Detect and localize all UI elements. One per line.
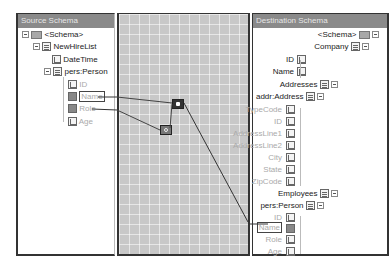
logical-functoid-icon[interactable]: [160, 125, 172, 135]
field-icon: [286, 117, 295, 126]
field-icon: [286, 177, 295, 186]
tree-connector: [300, 108, 301, 186]
record-icon: [320, 189, 329, 198]
collapse-icon[interactable]: [362, 43, 369, 50]
dest-node-address[interactable]: addr:Address: [256, 92, 324, 102]
linked-field-icon: [68, 92, 77, 101]
dest-node-employees[interactable]: Employees: [278, 189, 338, 199]
tree-connector: [300, 216, 301, 254]
record-icon: [53, 67, 62, 76]
dest-node-company-id[interactable]: ID: [286, 55, 294, 65]
dest-node-age[interactable]: Age: [268, 247, 282, 257]
collapse-icon[interactable]: [331, 81, 338, 88]
field-icon: [286, 213, 295, 222]
field-icon: [286, 153, 295, 162]
dest-node-schema[interactable]: <Schema>: [318, 30, 379, 40]
field-icon: [286, 129, 295, 138]
field-icon: [297, 67, 306, 76]
record-icon: [351, 42, 360, 51]
record-icon: [42, 42, 51, 51]
dest-node-state[interactable]: State: [263, 165, 282, 175]
field-icon: [297, 55, 306, 64]
source-node-datetime[interactable]: DateTime: [52, 55, 98, 65]
source-node-age[interactable]: Age: [68, 117, 93, 127]
dest-node-role[interactable]: Role: [266, 235, 282, 245]
destination-schema-header: Destination Schema: [253, 14, 387, 28]
dest-node-company[interactable]: Company: [314, 42, 369, 52]
field-icon: [286, 165, 295, 174]
source-node-name[interactable]: Name: [68, 92, 105, 102]
source-node-newhirelist[interactable]: NewHireList: [33, 42, 97, 52]
folder-icon: [359, 31, 370, 39]
field-icon: [68, 117, 77, 126]
folder-icon: [31, 31, 42, 39]
string-functoid-icon[interactable]: [172, 99, 184, 109]
field-icon: [52, 55, 61, 64]
field-icon: [286, 235, 295, 244]
collapse-icon[interactable]: [317, 93, 324, 100]
dest-node-zipcode[interactable]: ZipCode: [252, 177, 282, 187]
linked-field-icon: [286, 224, 295, 233]
collapse-icon[interactable]: [372, 31, 379, 38]
collapse-icon[interactable]: [44, 68, 51, 75]
field-icon: [286, 105, 295, 114]
mapping-grid[interactable]: [117, 13, 250, 256]
dest-node-person-name[interactable]: Name: [257, 223, 282, 233]
dest-node-typecode[interactable]: TypeCode: [246, 105, 282, 115]
field-icon: [286, 141, 295, 150]
record-icon: [306, 201, 315, 210]
field-icon: [68, 80, 77, 89]
dest-node-address-id[interactable]: ID: [274, 117, 282, 127]
record-icon: [320, 80, 329, 89]
record-icon: [306, 92, 315, 101]
collapse-icon[interactable]: [317, 202, 324, 209]
dest-node-person[interactable]: pers:Person: [260, 201, 324, 211]
source-schema-header: Source Schema: [18, 14, 114, 28]
tree-connector: [300, 60, 301, 78]
linked-field-icon: [68, 104, 77, 113]
source-node-person[interactable]: pers:Person: [44, 67, 108, 77]
dest-node-company-name[interactable]: Name: [273, 67, 294, 77]
tree-connector: [63, 77, 64, 122]
source-node-role[interactable]: Role: [68, 104, 96, 114]
field-icon: [286, 247, 295, 256]
collapse-icon[interactable]: [33, 43, 40, 50]
source-node-id[interactable]: ID: [68, 80, 87, 90]
collapse-icon[interactable]: [331, 190, 338, 197]
dest-node-addresses[interactable]: Addresses: [280, 80, 338, 90]
dest-node-addressline1[interactable]: AddressLine1: [233, 129, 282, 139]
dest-node-addressline2[interactable]: AddressLine2: [233, 141, 282, 151]
dest-node-city[interactable]: City: [268, 153, 282, 163]
collapse-icon[interactable]: [22, 31, 29, 38]
source-node-schema[interactable]: <Schema>: [22, 30, 83, 40]
